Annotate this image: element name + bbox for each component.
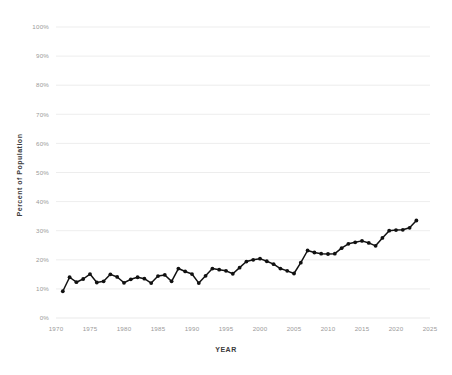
data-series — [61, 219, 418, 294]
data-point[interactable] — [251, 258, 255, 262]
y-axis-title: Percent of Population — [16, 134, 24, 217]
x-axis-tick-labels: 1970197519801985199019952000200520102015… — [49, 325, 438, 332]
data-point[interactable] — [238, 266, 242, 270]
y-axis-tick-label: 100% — [32, 23, 49, 30]
line-chart: 0%10%20%30%40%50%60%70%80%90%100% 197019… — [0, 0, 452, 375]
data-point[interactable] — [68, 275, 72, 279]
data-point[interactable] — [347, 242, 351, 246]
data-point[interactable] — [340, 246, 344, 250]
data-point[interactable] — [156, 274, 160, 278]
x-axis-tick-label: 2010 — [321, 325, 336, 332]
data-point[interactable] — [224, 269, 228, 273]
y-axis-tick-label: 80% — [36, 81, 49, 88]
series-line — [63, 221, 417, 292]
data-point[interactable] — [319, 252, 323, 256]
x-axis-tick-label: 1990 — [185, 325, 200, 332]
data-point[interactable] — [197, 281, 201, 285]
data-point[interactable] — [95, 281, 99, 285]
data-point[interactable] — [122, 281, 126, 285]
data-point[interactable] — [143, 277, 147, 281]
y-axis-tick-label: 40% — [36, 198, 49, 205]
data-point[interactable] — [285, 269, 289, 273]
x-axis-tick-label: 1970 — [49, 325, 64, 332]
x-axis-title: YEAR — [215, 346, 236, 353]
data-point[interactable] — [387, 229, 391, 233]
y-axis-tick-label: 20% — [36, 256, 49, 263]
data-point[interactable] — [245, 260, 249, 264]
x-axis-tick-label: 1980 — [117, 325, 132, 332]
data-point[interactable] — [115, 275, 119, 279]
data-point[interactable] — [136, 275, 140, 279]
x-axis-tick-label: 1995 — [219, 325, 234, 332]
data-point[interactable] — [177, 267, 181, 271]
x-axis-tick-label: 2000 — [253, 325, 268, 332]
data-point[interactable] — [408, 226, 412, 230]
data-point[interactable] — [211, 267, 215, 271]
data-point[interactable] — [109, 272, 113, 276]
data-point[interactable] — [326, 252, 330, 256]
data-point[interactable] — [217, 268, 221, 272]
data-point[interactable] — [279, 267, 283, 271]
x-axis-tick-label: 2015 — [355, 325, 370, 332]
data-point[interactable] — [61, 289, 65, 293]
data-point[interactable] — [204, 274, 208, 278]
y-axis-tick-label: 30% — [36, 227, 49, 234]
x-axis-tick-label: 2005 — [287, 325, 302, 332]
data-point[interactable] — [401, 228, 405, 232]
data-point[interactable] — [415, 219, 419, 223]
y-axis-tick-label: 90% — [36, 52, 49, 59]
data-point[interactable] — [272, 262, 276, 266]
data-point[interactable] — [306, 249, 310, 253]
y-axis-tick-label: 70% — [36, 111, 49, 118]
data-point[interactable] — [190, 272, 194, 276]
y-axis-tick-label: 60% — [36, 140, 49, 147]
y-axis-tick-label: 0% — [40, 314, 50, 321]
data-point[interactable] — [313, 251, 317, 255]
data-point[interactable] — [292, 272, 296, 276]
x-axis-tick-label: 1985 — [151, 325, 166, 332]
x-axis-tick-label: 2020 — [389, 325, 404, 332]
x-axis-tick-label: 1975 — [83, 325, 98, 332]
data-point[interactable] — [149, 281, 153, 285]
data-point[interactable] — [88, 272, 92, 276]
data-point[interactable] — [231, 272, 235, 276]
chart-canvas: 0%10%20%30%40%50%60%70%80%90%100% 197019… — [0, 0, 452, 375]
data-point[interactable] — [183, 270, 187, 274]
data-point[interactable] — [102, 279, 106, 283]
data-point[interactable] — [360, 239, 364, 243]
data-point[interactable] — [374, 244, 378, 248]
data-point[interactable] — [75, 280, 79, 284]
data-point[interactable] — [394, 228, 398, 232]
y-axis-tick-labels: 0%10%20%30%40%50%60%70%80%90%100% — [32, 23, 49, 321]
y-axis-tick-label: 10% — [36, 285, 49, 292]
data-point[interactable] — [163, 273, 167, 277]
y-axis-tick-label: 50% — [36, 169, 49, 176]
data-point[interactable] — [81, 277, 85, 281]
data-point[interactable] — [353, 240, 357, 244]
data-point[interactable] — [367, 241, 371, 245]
data-point[interactable] — [299, 261, 303, 265]
data-point[interactable] — [381, 236, 385, 240]
data-point[interactable] — [265, 259, 269, 263]
data-point[interactable] — [258, 257, 262, 261]
data-point[interactable] — [333, 252, 337, 256]
data-point[interactable] — [170, 279, 174, 283]
x-axis-tick-label: 2025 — [423, 325, 438, 332]
data-point[interactable] — [129, 277, 133, 281]
